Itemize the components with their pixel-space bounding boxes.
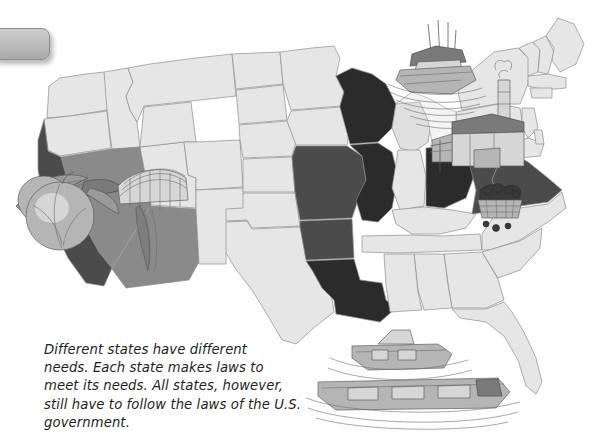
state-indiana (392, 150, 426, 210)
caption-line-4: still have to follow the laws of the U.S… (44, 396, 300, 414)
state-connecticut (530, 88, 552, 98)
state-kansas (243, 157, 295, 192)
state-tennessee (362, 234, 482, 253)
barge-boats-illustration (306, 330, 520, 429)
state-washington (47, 72, 108, 118)
state-north-dakota (232, 52, 283, 89)
state-maine (546, 18, 584, 72)
state-massachusetts (528, 74, 566, 90)
caption-line-3: meet its needs. All states, however, (44, 377, 300, 395)
corner-tab[interactable] (0, 28, 50, 60)
state-arkansas (300, 219, 354, 260)
state-oregon (44, 111, 111, 156)
page-root: Different states have different needs. E… (0, 0, 609, 433)
state-iowa (287, 107, 350, 145)
state-delaware (534, 130, 544, 144)
state-missouri (292, 146, 366, 220)
state-nebraska (239, 121, 296, 158)
caption-text-block: Different states have different needs. E… (44, 341, 300, 432)
state-south-dakota (236, 85, 287, 124)
caption-line-2: needs. Each state makes laws to (44, 359, 300, 377)
state-wyoming (140, 102, 196, 147)
state-minnesota (280, 46, 344, 110)
state-kentucky (392, 207, 476, 234)
caption-line-1: Different states have different (44, 341, 300, 359)
caption-line-5: government. (44, 414, 300, 432)
